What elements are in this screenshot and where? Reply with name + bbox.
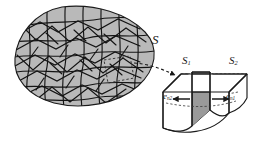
figure-canvas [0, 0, 263, 143]
label-subdomain-s2: S2 [229, 55, 238, 67]
label-normal-en1-sub: n1 [230, 95, 235, 101]
label-normal-en2-sub: n2 [167, 95, 172, 101]
label-surface-s: S [152, 33, 159, 46]
label-subdomain-s1-sub: 1 [188, 59, 191, 66]
detail-box [163, 72, 247, 132]
label-subdomain-s2-sub: 2 [235, 59, 238, 66]
label-normal-en1: en1 [226, 92, 235, 101]
label-subdomain-s1: S1 [182, 55, 191, 67]
figure-root: S S1 S2 en2 en1 [0, 0, 263, 143]
label-normal-en2: en2 [163, 92, 172, 101]
meshed-blob [9, 0, 160, 118]
